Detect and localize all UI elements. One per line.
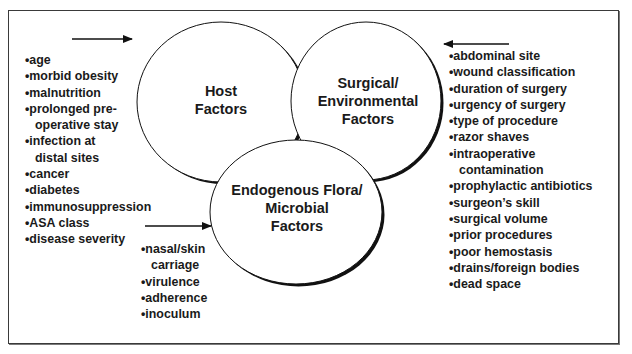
list-item: •adherence — [141, 290, 207, 306]
list-item-text: morbid obesity — [29, 69, 118, 83]
list-item: •drains/foreign bodies — [449, 260, 592, 276]
list-item-text: disease severity — [29, 232, 125, 246]
label-line: Factors — [171, 100, 271, 118]
list-item-text: age — [29, 53, 50, 67]
list-item: •wound classification — [449, 64, 592, 80]
list-item-text: adherence — [145, 291, 207, 305]
list-item: •age — [25, 52, 151, 68]
list-item-text: surgeon’s skill — [453, 196, 539, 210]
list-item-text: prolonged pre- — [29, 102, 116, 116]
surgical-factors-list: •abdominal site•wound classification•dur… — [449, 48, 592, 292]
list-item-text: prophylactic antibiotics — [453, 179, 592, 193]
list-item-text: infection at — [29, 134, 95, 148]
list-item: •infection atdistal sites — [25, 133, 151, 166]
list-item-text: diabetes — [29, 183, 79, 197]
list-item-text: nasal/skin — [145, 242, 205, 256]
list-item-text: surgical volume — [453, 212, 547, 226]
list-item: •cancer — [25, 166, 151, 182]
label-line: Surgical/ — [305, 74, 431, 92]
list-item-text: cancer — [29, 167, 69, 181]
list-item: •virulence — [141, 274, 207, 290]
list-item-continuation: carriage — [141, 257, 207, 273]
label-line: Host — [171, 82, 271, 100]
list-item-text: inoculum — [145, 307, 200, 321]
list-item-text: immunosuppression — [29, 200, 151, 214]
list-item: •urgency of surgery — [449, 97, 592, 113]
list-item-text: dead space — [453, 277, 521, 291]
list-item-continuation: distal sites — [25, 150, 151, 166]
label-line: Factors — [206, 217, 388, 235]
list-item: •ASA class — [25, 215, 151, 231]
list-item: •surgeon’s skill — [449, 195, 592, 211]
list-item-text: prior procedures — [453, 228, 552, 242]
list-item: •dead space — [449, 276, 592, 292]
list-item: •surgical volume — [449, 211, 592, 227]
list-item: •type of procedure — [449, 113, 592, 129]
host-factors-label: Host Factors — [171, 82, 271, 118]
list-item-text: urgency of surgery — [453, 98, 565, 112]
list-item: •disease severity — [25, 231, 151, 247]
list-item-text: poor hemostasis — [453, 245, 552, 259]
microbial-factors-list: •nasal/skincarriage•virulence•adherence•… — [141, 241, 207, 322]
label-line: Environmental — [305, 92, 431, 110]
list-item-text: ASA class — [29, 216, 89, 230]
list-item-text: razor shaves — [453, 130, 529, 144]
list-item: •morbid obesity — [25, 68, 151, 84]
list-item: •prolonged pre-operative stay — [25, 101, 151, 134]
list-item: •nasal/skincarriage — [141, 241, 207, 274]
list-item-text: malnutrition — [29, 86, 101, 100]
list-item: •razor shaves — [449, 129, 592, 145]
list-item-text: type of procedure — [453, 114, 558, 128]
list-item: •diabetes — [25, 182, 151, 198]
endogenous-microbial-factors-label: Endogenous Flora/ Microbial Factors — [206, 181, 388, 235]
list-item-text: drains/foreign bodies — [453, 261, 579, 275]
label-line: Endogenous Flora/ — [206, 181, 388, 199]
list-item-text: duration of surgery — [453, 82, 567, 96]
list-item-continuation: operative stay — [25, 117, 151, 133]
list-item-continuation: contamination — [449, 162, 592, 178]
list-item: •abdominal site — [449, 48, 592, 64]
list-item-text: intraoperative — [453, 147, 535, 161]
label-line: Microbial — [206, 199, 388, 217]
list-item-text: virulence — [145, 275, 199, 289]
list-item: •prior procedures — [449, 227, 592, 243]
list-item: •duration of surgery — [449, 81, 592, 97]
list-item: •malnutrition — [25, 85, 151, 101]
list-item: •immunosuppression — [25, 199, 151, 215]
list-item: •inoculum — [141, 306, 207, 322]
list-item-text: wound classification — [453, 65, 575, 79]
host-factors-list: •age•morbid obesity•malnutrition•prolong… — [25, 52, 151, 248]
list-item: •intraoperativecontamination — [449, 146, 592, 179]
list-item: •poor hemostasis — [449, 244, 592, 260]
list-item-text: abdominal site — [453, 49, 540, 63]
list-item: •prophylactic antibiotics — [449, 178, 592, 194]
label-line: Factors — [305, 110, 431, 128]
surgical-environmental-factors-label: Surgical/ Environmental Factors — [305, 74, 431, 128]
